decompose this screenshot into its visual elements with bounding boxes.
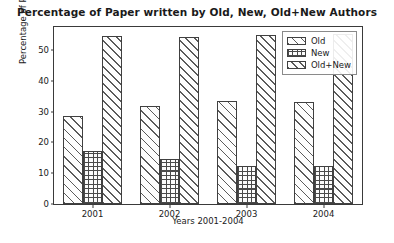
- bar-old-new-2001: [102, 36, 122, 204]
- x-tick-mark: [246, 204, 247, 208]
- legend-item-oldnew: Old+New: [287, 59, 351, 71]
- legend-swatch-old-icon: [287, 37, 306, 45]
- legend-label-new: New: [311, 48, 330, 58]
- bar-old-2003: [217, 101, 237, 204]
- legend-item-old: Old: [287, 35, 351, 47]
- chart-title: Percentage of Paper written by Old, New,…: [0, 6, 394, 18]
- x-tick-mark: [323, 204, 324, 208]
- plot-area: 01020304050 2001200220032004 Percentage …: [53, 26, 363, 205]
- bar-old-new-2002: [179, 37, 199, 204]
- legend-label-old: Old: [311, 36, 325, 46]
- x-tick-mark: [169, 204, 170, 208]
- legend-swatch-new-icon: [287, 49, 306, 57]
- bar-new-2003: [237, 166, 257, 204]
- bar-new-2004: [314, 166, 334, 204]
- bar-old-2002: [140, 106, 160, 205]
- x-axis-label: Years 2001-2004: [53, 216, 363, 226]
- legend-label-oldnew: Old+New: [311, 60, 351, 70]
- bar-old-new-2003: [256, 35, 276, 204]
- bar-new-2001: [83, 151, 103, 204]
- bar-chart: Percentage of Paper written by Old, New,…: [0, 0, 394, 243]
- legend-swatch-oldnew-icon: [287, 61, 306, 69]
- legend-item-new: New: [287, 47, 351, 59]
- y-axis-label: Percentage of Papers: [18, 0, 28, 79]
- bar-old-2001: [63, 116, 83, 204]
- chart-legend: Old New Old+New: [282, 31, 357, 75]
- x-tick-mark: [92, 204, 93, 208]
- bar-old-2004: [294, 102, 314, 204]
- bar-new-2002: [160, 159, 180, 204]
